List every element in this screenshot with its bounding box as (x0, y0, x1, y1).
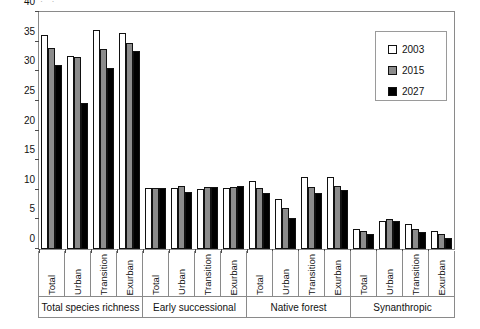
clipped-header-text: · · (40, 0, 58, 6)
legend-label: 2015 (402, 66, 424, 76)
bar[interactable] (412, 229, 419, 249)
x-axis-group-label: Native forest (246, 297, 350, 317)
bar[interactable] (327, 177, 334, 249)
x-axis-subcategory-cell: Transition (90, 251, 116, 296)
y-axis-tick-label: 40 (24, 0, 35, 7)
bar[interactable] (119, 33, 126, 249)
x-axis-subcategory-label: Exurban (229, 260, 239, 295)
x-axis-subcategory-group: TotalUrbanTransitionExurban (246, 251, 350, 296)
x-axis-subcategory-cell: Transition (298, 251, 324, 296)
bar[interactable] (386, 219, 393, 249)
bar[interactable] (133, 51, 140, 249)
bar[interactable] (431, 231, 438, 249)
bar[interactable] (353, 229, 360, 249)
bar[interactable] (211, 187, 218, 249)
y-axis-tick-label: 25 (24, 86, 35, 96)
bar[interactable] (197, 189, 204, 249)
bar[interactable] (249, 181, 256, 249)
bar[interactable] (67, 56, 74, 249)
bar[interactable] (204, 187, 211, 249)
bar[interactable] (126, 43, 133, 249)
bar-cluster (39, 12, 65, 249)
bar[interactable] (159, 188, 166, 249)
bar-cluster (195, 12, 221, 249)
bar[interactable] (145, 188, 152, 249)
x-axis-subcategory-label: Total (47, 275, 57, 295)
bar[interactable] (334, 186, 341, 249)
x-axis-subcategory-label: Urban (281, 269, 291, 295)
x-axis-subcategory-cell: Total (143, 251, 168, 296)
bar-cluster (324, 12, 350, 249)
x-axis-subcategory-label: Urban (73, 269, 83, 295)
bar[interactable] (275, 199, 282, 249)
bar[interactable] (445, 238, 452, 249)
x-axis-subcategory-label: Urban (177, 269, 187, 295)
x-axis-subcategory-label: Urban (385, 269, 395, 295)
x-axis-subcategory-cell: Urban (168, 251, 194, 296)
bar-cluster (350, 12, 376, 249)
bar[interactable] (107, 68, 114, 249)
bar[interactable] (230, 187, 237, 249)
bar[interactable] (48, 48, 55, 249)
x-axis-subcategory-label: Exurban (333, 260, 343, 295)
x-axis-subcategory-cell: Exurban (220, 251, 246, 296)
legend-item[interactable]: 2027 (388, 81, 446, 102)
x-axis-subcategory-cell: Exurban (116, 251, 142, 296)
bar[interactable] (393, 221, 400, 249)
x-axis-subcategory-cell: Total (351, 251, 376, 296)
bar[interactable] (81, 103, 88, 249)
x-axis-subcategory-label: Transition (411, 254, 421, 295)
x-axis-subcategory-group: TotalUrbanTransitionExurban (142, 251, 246, 296)
bar[interactable] (379, 221, 386, 249)
bar-cluster (221, 12, 247, 249)
y-axis-tick-label: 0 (29, 234, 35, 244)
bar[interactable] (93, 30, 100, 249)
bar[interactable] (360, 231, 367, 249)
x-axis-subcategory-label: Total (151, 275, 161, 295)
legend-item[interactable]: 2003 (388, 39, 446, 60)
bar[interactable] (237, 186, 244, 249)
bar[interactable] (308, 187, 315, 249)
x-axis-group-band: Total species richnessEarly successional… (38, 296, 455, 318)
bar[interactable] (438, 234, 445, 249)
bar-cluster (272, 12, 298, 249)
bar[interactable] (100, 49, 107, 249)
legend-item[interactable]: 2015 (388, 60, 446, 81)
x-axis-subcategory-cell: Urban (376, 251, 402, 296)
bar-cluster (91, 12, 117, 249)
x-axis-subcategory-group: TotalUrbanTransitionExurban (39, 251, 142, 296)
bar[interactable] (367, 234, 374, 249)
bar[interactable] (256, 188, 263, 249)
x-axis-group-label: Synanthropic (350, 297, 454, 317)
bar[interactable] (263, 193, 270, 249)
bar-cluster (143, 12, 169, 249)
bar[interactable] (301, 177, 308, 249)
x-axis-subcategory-group: TotalUrbanTransitionExurban (350, 251, 454, 296)
x-axis-subcategory-label: Total (255, 275, 265, 295)
bar[interactable] (178, 186, 185, 249)
bar-group (39, 12, 143, 249)
bar[interactable] (289, 218, 296, 249)
bar[interactable] (41, 35, 48, 249)
y-axis-tick-label: 30 (24, 56, 35, 66)
x-axis-subcategory-cell: Transition (402, 251, 428, 296)
bar[interactable] (282, 208, 289, 249)
bar[interactable] (223, 188, 230, 249)
bar[interactable] (55, 65, 62, 249)
bar[interactable] (185, 192, 192, 249)
x-axis-subcategory-label: Transition (203, 254, 213, 295)
x-axis-subcategory-label: Transition (307, 254, 317, 295)
bar[interactable] (405, 224, 412, 249)
x-axis-subcategory-cell: Urban (64, 251, 90, 296)
bar[interactable] (74, 57, 81, 249)
bar[interactable] (419, 232, 426, 249)
x-axis-subcategory-cell: Exurban (428, 251, 454, 296)
legend-label: 2003 (402, 45, 424, 55)
bar[interactable] (315, 193, 322, 249)
bar[interactable] (171, 188, 178, 249)
bar[interactable] (341, 190, 348, 249)
bar-cluster (65, 12, 91, 249)
bar-cluster (169, 12, 195, 249)
bar-group (247, 12, 351, 249)
bar[interactable] (152, 188, 159, 249)
